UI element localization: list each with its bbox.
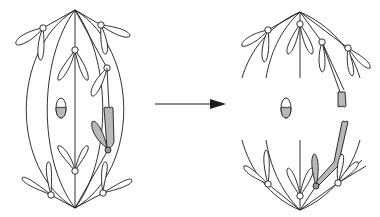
left-inner-fiber-right — [75, 10, 103, 208]
chromosome — [58, 146, 89, 174]
chromosome — [22, 162, 54, 198]
chromosome — [16, 25, 46, 60]
chromosome — [319, 39, 325, 72]
acentric-fragment — [56, 98, 66, 118]
right-spindle — [242, 12, 370, 210]
chromosome — [91, 65, 110, 108]
chromosome — [98, 22, 130, 54]
chromosome — [244, 150, 271, 187]
severed-fiber-upper — [338, 92, 346, 107]
shaded-chromosome — [312, 154, 319, 189]
spindle-diagram: Metaphase-like spindle, intact fibers, o… — [0, 0, 380, 217]
acentric-fragment — [281, 98, 291, 118]
chromosome — [242, 27, 271, 62]
diagram-svg — [0, 0, 380, 217]
left-outer-fiber-right — [75, 10, 124, 208]
left-spindle — [16, 10, 132, 208]
chromosome — [58, 47, 89, 80]
transition-arrow-icon — [155, 99, 226, 109]
chromosome — [100, 162, 132, 196]
